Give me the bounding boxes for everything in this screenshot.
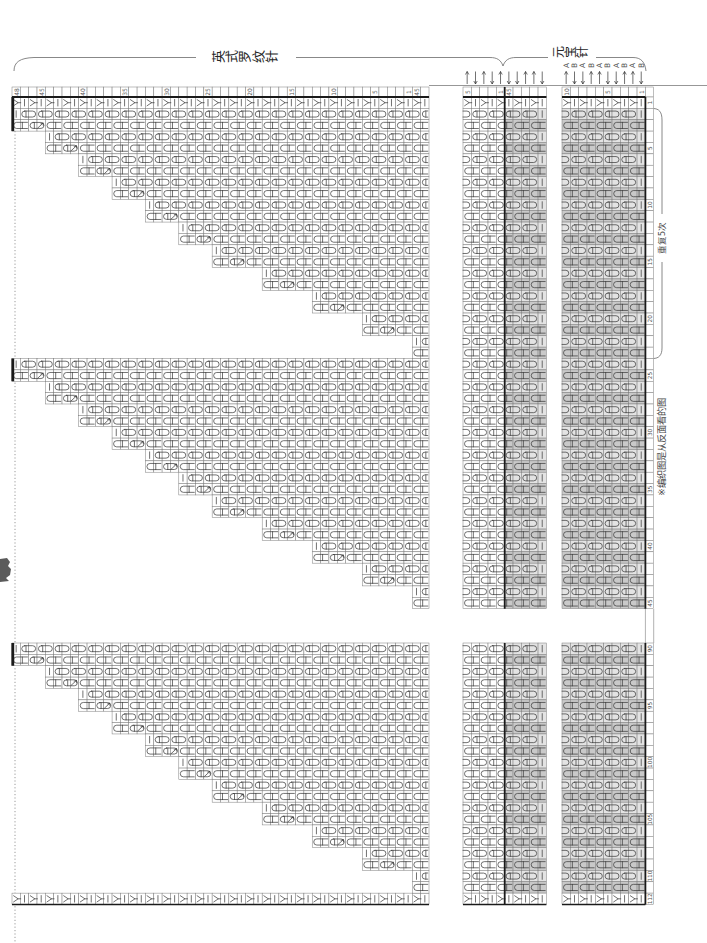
chart-cell — [521, 438, 529, 449]
chart-cell — [629, 120, 637, 131]
chart-cell — [321, 723, 329, 734]
chart-cell — [371, 415, 379, 426]
chart-cell — [421, 302, 429, 313]
chart-cell — [145, 211, 153, 222]
chart-cell — [595, 233, 603, 244]
chart-cell — [79, 142, 87, 153]
chart-cell — [570, 552, 578, 563]
chart-cell — [337, 745, 345, 756]
chart-cell — [620, 211, 628, 222]
row-number-cell — [179, 87, 187, 97]
chart-cell — [237, 768, 245, 779]
chart-cell — [337, 529, 345, 540]
row-number: 5 — [604, 90, 611, 94]
chart-cell — [237, 393, 245, 404]
chart-cell — [538, 211, 546, 222]
arrow-up-icon — [631, 72, 634, 85]
arrow-down-icon — [606, 72, 609, 85]
chart-cell — [587, 393, 595, 404]
chart-cell — [204, 654, 212, 665]
chart-cell — [254, 745, 262, 756]
chart-cell — [371, 677, 379, 688]
chart-cell — [570, 700, 578, 711]
chart-cell — [87, 370, 95, 381]
chart-cell — [521, 165, 529, 176]
chart-cell — [304, 415, 312, 426]
chart-cell — [329, 142, 337, 153]
chart-cell — [604, 120, 612, 131]
chart-cell — [404, 393, 412, 404]
chart-cell — [237, 700, 245, 711]
stitch-number-cell — [645, 108, 653, 119]
chart-cell — [145, 188, 153, 199]
chart-cell — [287, 120, 295, 131]
row-number-cell — [62, 87, 70, 97]
chart-cell — [129, 165, 137, 176]
chart-cell — [570, 211, 578, 222]
chart-cell — [237, 211, 245, 222]
chart-cell — [337, 211, 345, 222]
chart-cell — [521, 393, 529, 404]
chart-cell — [287, 415, 295, 426]
chart-cell — [587, 438, 595, 449]
chart-cell — [170, 654, 178, 665]
chart-cell — [637, 347, 645, 358]
chart-cell — [237, 120, 245, 131]
chart-cell — [262, 165, 270, 176]
chart-cell — [587, 529, 595, 540]
stitch-number: 40 — [647, 542, 653, 550]
chart-cell — [505, 393, 513, 404]
chart-cell — [562, 188, 570, 199]
selvedge-bar — [11, 97, 14, 131]
chart-cell — [337, 768, 345, 779]
chart-cell — [371, 188, 379, 199]
chart-cell — [254, 723, 262, 734]
chart-cell — [321, 233, 329, 244]
chart-cell — [271, 211, 279, 222]
stitch-number-cell — [645, 654, 653, 665]
chart-cell — [505, 597, 513, 608]
chart-cell — [637, 768, 645, 779]
chart-cell — [488, 415, 496, 426]
stitch-number-cell — [645, 359, 653, 370]
chart-cell — [120, 438, 128, 449]
row-number-cell — [595, 87, 603, 97]
chart-cell — [279, 142, 287, 153]
chart-cell — [521, 506, 529, 517]
chart-cell — [204, 700, 212, 711]
stitch-number-cell — [645, 461, 653, 472]
stitch-number-cell — [645, 438, 653, 449]
chart-cell — [471, 120, 479, 131]
chart-cell — [637, 814, 645, 825]
chart-cell — [505, 461, 513, 472]
chart-cell — [421, 415, 429, 426]
chart-cell — [521, 552, 529, 563]
chart-cell — [45, 142, 53, 153]
chart-cell — [587, 882, 595, 893]
row-number: 25 — [204, 88, 211, 96]
stitch-number: 1 — [647, 101, 653, 105]
chart-cell — [412, 211, 420, 222]
chart-cell — [587, 256, 595, 267]
chart-cell — [595, 188, 603, 199]
chart-cell — [187, 120, 195, 131]
chart-cell — [387, 677, 395, 688]
chart-cell — [570, 302, 578, 313]
chart-cell — [488, 529, 496, 540]
chart-cell — [204, 677, 212, 688]
chart-cell — [587, 370, 595, 381]
chart-cell — [371, 438, 379, 449]
chart-cell — [612, 233, 620, 244]
chart-cell — [421, 347, 429, 358]
chart-cell — [104, 142, 112, 153]
arrow-down-icon — [581, 72, 584, 85]
chart-cell — [521, 859, 529, 870]
chart-cell — [404, 529, 412, 540]
chart-cell — [505, 120, 513, 131]
stitch-number-cell — [645, 290, 653, 301]
chart-cell — [521, 882, 529, 893]
chart-cell — [587, 506, 595, 517]
chart-cell — [20, 370, 28, 381]
stitch-number: 5 — [647, 146, 653, 150]
stitch-number-cell — [645, 245, 653, 256]
